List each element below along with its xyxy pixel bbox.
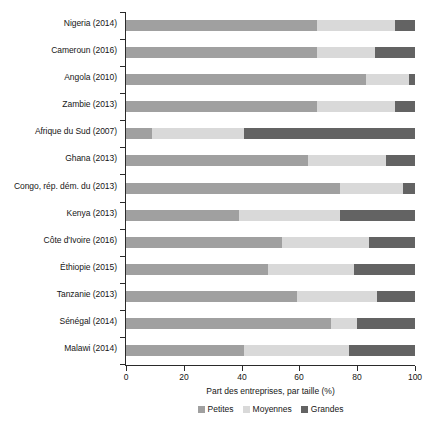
stacked-bar: [126, 345, 415, 356]
x-axis-tick: [299, 366, 300, 371]
bar-segment-grandes: [386, 155, 415, 166]
stacked-bar: [126, 47, 415, 58]
bar-row: [126, 155, 415, 166]
y-axis-tick: [120, 229, 125, 230]
y-axis-label: Angola (2010): [0, 72, 117, 82]
legend-item-petites: Petites: [198, 404, 234, 414]
y-axis-tick: [120, 147, 125, 148]
bar-segment-grandes: [375, 47, 415, 58]
x-axis-tick-label: 80: [352, 372, 361, 382]
bar-row: [126, 345, 415, 356]
bar-segment-grandes: [409, 74, 415, 85]
chart-container: Nigeria (2014)Cameroun (2016)Angola (201…: [0, 0, 435, 432]
bar-segment-grandes: [395, 101, 415, 112]
bar-row: [126, 237, 415, 248]
bar-segment-moyennes: [317, 101, 395, 112]
bar-row: [126, 20, 415, 31]
y-axis-tick: [120, 120, 125, 121]
bar-segment-moyennes: [244, 345, 348, 356]
bar-row: [126, 264, 415, 275]
bar-segment-moyennes: [268, 264, 355, 275]
bar-segment-petites: [126, 101, 317, 112]
bar-row: [126, 47, 415, 58]
bar-segment-grandes: [244, 128, 415, 139]
y-axis-tick: [120, 256, 125, 257]
bar-segment-moyennes: [317, 47, 375, 58]
y-axis-tick: [120, 39, 125, 40]
x-axis-tick-label: 0: [124, 372, 129, 382]
bar-segment-petites: [126, 318, 331, 329]
legend-swatch-icon: [301, 406, 308, 413]
bar-row: [126, 74, 415, 85]
y-axis-label: Éthiopie (2015): [0, 262, 117, 272]
bar-segment-grandes: [349, 345, 415, 356]
bar-segment-petites: [126, 291, 297, 302]
x-axis-tick: [242, 366, 243, 371]
x-axis-tick: [184, 366, 185, 371]
stacked-bar: [126, 183, 415, 194]
bar-segment-moyennes: [340, 183, 404, 194]
x-axis-tick-label: 100: [408, 372, 422, 382]
y-axis-label: Malawi (2014): [0, 343, 117, 353]
bar-segment-grandes: [369, 237, 415, 248]
bar-row: [126, 291, 415, 302]
stacked-bar: [126, 155, 415, 166]
bar-segment-moyennes: [317, 20, 395, 31]
bar-row: [126, 128, 415, 139]
stacked-bar: [126, 291, 415, 302]
legend-item-grandes: Grandes: [301, 404, 344, 414]
stacked-bar: [126, 210, 415, 221]
x-axis-tick: [415, 366, 416, 371]
bar-segment-petites: [126, 155, 308, 166]
x-axis-tick: [357, 366, 358, 371]
y-axis-tick: [120, 310, 125, 311]
y-axis-label: Congo, rép. dém. du (2013): [0, 181, 117, 191]
x-axis-tick-label: 20: [179, 372, 188, 382]
bar-segment-moyennes: [308, 155, 386, 166]
bar-segment-petites: [126, 237, 282, 248]
y-axis-label: Ghana (2013): [0, 153, 117, 163]
x-axis-tick-label: 60: [294, 372, 303, 382]
bar-segment-grandes: [403, 183, 415, 194]
legend-label: Petites: [208, 404, 234, 414]
stacked-bar: [126, 128, 415, 139]
stacked-bar: [126, 101, 415, 112]
y-axis-label: Tanzanie (2013): [0, 289, 117, 299]
y-axis-label: Afrique du Sud (2007): [0, 126, 117, 136]
y-axis-label: Nigeria (2014): [0, 18, 117, 28]
y-axis-tick: [120, 202, 125, 203]
bar-segment-petites: [126, 128, 152, 139]
bar-segment-moyennes: [239, 210, 340, 221]
x-axis-tick: [126, 366, 127, 371]
legend-swatch-icon: [243, 406, 250, 413]
y-axis-tick: [120, 66, 125, 67]
x-axis-tick-label: 40: [237, 372, 246, 382]
bar-segment-moyennes: [297, 291, 378, 302]
y-axis-tick: [120, 174, 125, 175]
bar-row: [126, 210, 415, 221]
bar-segment-grandes: [354, 264, 415, 275]
y-axis-label: Zambie (2013): [0, 99, 117, 109]
bar-row: [126, 318, 415, 329]
bar-segment-petites: [126, 264, 268, 275]
legend-swatch-icon: [198, 406, 205, 413]
y-axis-tick: [120, 12, 125, 13]
legend-label: Grandes: [311, 404, 344, 414]
bar-segment-grandes: [340, 210, 415, 221]
y-axis-tick: [120, 283, 125, 284]
bar-row: [126, 183, 415, 194]
y-axis-tick: [120, 364, 125, 365]
legend-label: Moyennes: [253, 404, 292, 414]
bar-segment-petites: [126, 345, 244, 356]
bar-segment-petites: [126, 20, 317, 31]
bar-segment-grandes: [357, 318, 415, 329]
y-axis-label: Cameroun (2016): [0, 45, 117, 55]
bar-segment-petites: [126, 47, 317, 58]
bar-row: [126, 101, 415, 112]
y-axis-label: Sénégal (2014): [0, 316, 117, 326]
y-axis-label: Côte d'Ivoire (2016): [0, 235, 117, 245]
bar-segment-petites: [126, 74, 366, 85]
stacked-bar: [126, 20, 415, 31]
y-axis-tick: [120, 337, 125, 338]
bar-segment-moyennes: [282, 237, 369, 248]
